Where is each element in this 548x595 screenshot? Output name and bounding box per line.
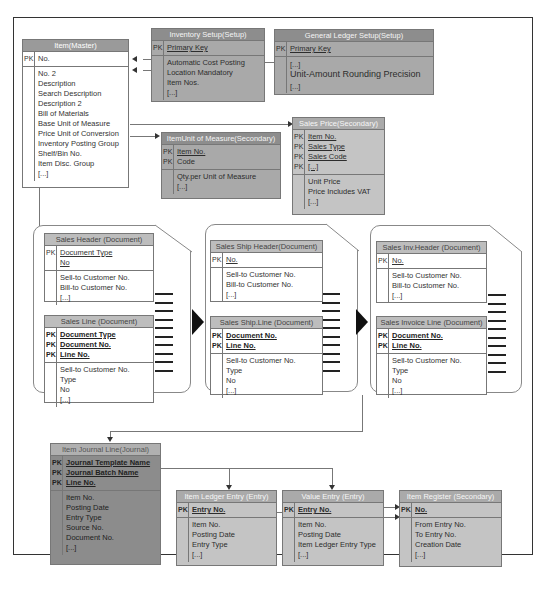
pk-label: PK	[163, 147, 172, 157]
entity-title: Sales Line (Document)	[45, 316, 153, 328]
entity-item-register: Item Register (Secondary) PK No. From En…	[399, 490, 502, 567]
field: [...]	[298, 550, 380, 560]
pk-label: PK	[401, 505, 410, 515]
pk-field: Sales Type	[308, 142, 381, 152]
field: Automatic Cost Posting	[167, 58, 261, 68]
field: [...]	[167, 88, 261, 98]
field: Source No.	[66, 523, 157, 533]
pk-label: PK	[284, 505, 293, 515]
field: [...]	[226, 386, 319, 396]
field: Location Mandatory	[167, 68, 261, 78]
flow-arrow-icon	[356, 309, 368, 335]
field: Entry Type	[192, 540, 273, 550]
pk-label: PK	[212, 341, 221, 351]
field: No	[392, 376, 483, 386]
entity-sales-ship-line: Sales Ship.Line (Document) PK PK Documen…	[210, 316, 323, 395]
stripes-shipment	[322, 293, 340, 378]
field: Shelf/Bin No.	[38, 149, 125, 159]
field: Type	[226, 366, 319, 376]
field: Document No.	[66, 533, 157, 543]
field: Sell-to Customer No.	[392, 356, 483, 366]
field: Posting Date	[192, 530, 273, 540]
flow-arrow-icon	[192, 309, 204, 335]
field: Price Unit of Conversion	[38, 129, 125, 139]
connector-docs-to-journal-v	[362, 395, 363, 431]
arrow-down-icon	[107, 437, 113, 442]
field: Posting Date	[298, 530, 380, 540]
field: Item Disc. Group	[38, 159, 125, 169]
pk-label: PK	[46, 340, 55, 350]
entity-item-journal-line: Item Journal Line(Journal) PK PK PK Jour…	[50, 443, 161, 565]
pk-field: [...]	[308, 162, 381, 172]
field: Item No.	[192, 520, 273, 530]
pk-field: Journal Template Name	[66, 458, 157, 468]
doc-fold-corner	[489, 224, 523, 254]
pk-label: PK	[24, 54, 33, 64]
field: Type	[60, 375, 150, 385]
entity-title: Item Journal Line(Journal)	[51, 444, 160, 456]
pk-field: Code	[177, 157, 277, 167]
connector-journal-to-entries	[161, 468, 333, 469]
pk-label: PK	[212, 331, 221, 341]
entity-item-uom: ItemUnit of Measure(Secondary) PK PK Ite…	[161, 132, 281, 199]
field: [...]	[60, 395, 150, 405]
entity-title: Inventory Setup(Setup)	[152, 29, 264, 41]
connector-docs-to-journal-h	[110, 431, 363, 432]
pk-field: Journal Batch Name	[66, 468, 157, 478]
doc-fold-corner	[155, 224, 193, 254]
pk-label: PK	[52, 468, 61, 478]
pk-label: PK	[46, 330, 55, 340]
stripes-invoice	[488, 294, 506, 379]
field: [...]	[290, 59, 430, 69]
field: [...]	[66, 543, 157, 553]
field: Description	[38, 79, 125, 89]
pk-field: No.	[226, 255, 319, 265]
entity-sales-ship-header: Sales Ship Header(Document) PK No. Sell-…	[210, 240, 323, 302]
field: Item No.	[66, 493, 157, 503]
field: Sell-to Customer No.	[226, 356, 319, 366]
pk-field: Primary Key	[290, 44, 430, 54]
field: Search Description	[38, 89, 125, 99]
field: Posting Date	[66, 503, 157, 513]
entity-title: Sales Ship Header(Document)	[211, 241, 322, 253]
arrow-left-icon	[132, 67, 137, 73]
field: Bill-to Customer No.	[392, 281, 483, 291]
field: Sell-to Customer No.	[226, 270, 319, 280]
field: Price Includes VAT	[308, 187, 381, 197]
entity-item-ledger-entry: Item Ledger Entry (Entry) PK Entry No. I…	[176, 490, 277, 566]
pk-field: Line No.	[392, 341, 483, 351]
pk-field: No.	[38, 54, 125, 64]
pk-field: Line No.	[66, 478, 157, 488]
entity-value-entry: Value Entry (Entry) PK Entry No. Item No…	[282, 490, 384, 566]
field: [...]	[226, 290, 319, 300]
pk-field: Entry No.	[298, 505, 380, 515]
field: Qty.per Unit of Measure	[177, 172, 277, 182]
field: Sell-to Customer No.	[60, 273, 150, 283]
entity-sales-invoice-line: Sales Invoice Line (Document) PK PK Docu…	[376, 316, 487, 395]
connector-item-to-uom	[130, 136, 158, 137]
doc-fold-corner	[326, 223, 360, 253]
pk-label: PK	[378, 331, 387, 341]
field: Item No.	[298, 520, 380, 530]
pk-label: PK	[52, 458, 61, 468]
field: Sell-to Customer No.	[60, 365, 150, 375]
connector-item-to-salesprice	[130, 124, 290, 125]
pk-label: PK	[294, 152, 303, 162]
field: Creation Date	[415, 540, 498, 550]
pk-field: No.	[415, 505, 498, 515]
pk-label: PK	[294, 132, 303, 142]
field: Item Ledger Entry Type	[298, 540, 380, 550]
pk-field: Item No.	[308, 132, 381, 142]
field: [...]	[60, 293, 150, 303]
pk-field: Line No.	[226, 341, 319, 351]
pk-label: PK	[46, 350, 55, 360]
field: Base Unit of Measure	[38, 119, 125, 129]
field: From Entry No.	[415, 520, 498, 530]
field: [...]	[290, 81, 430, 91]
pk-label: PK	[294, 142, 303, 152]
arrow-right-icon	[155, 133, 160, 139]
entity-sales-line: Sales Line (Document) PK PK PK Document …	[44, 315, 154, 403]
entity-title: ItemUnit of Measure(Secondary)	[162, 133, 280, 145]
pk-field: Document Type	[60, 248, 150, 258]
field: No	[60, 385, 150, 395]
